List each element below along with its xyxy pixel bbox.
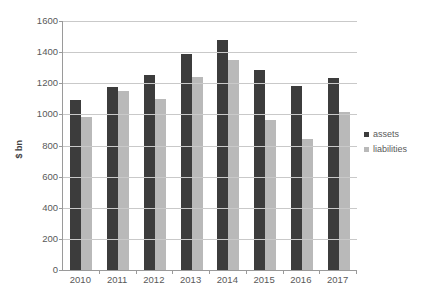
legend-item-liabilities[interactable]: liabilities (364, 145, 428, 154)
x-axis-tick-label-2010: 2010 (62, 275, 99, 285)
legend-item-assets[interactable]: assets (364, 130, 428, 139)
y-axis-tick-mark (59, 208, 63, 209)
bar-assets-2012[interactable] (144, 75, 155, 270)
y-axis-tick-label: 400 (42, 203, 58, 213)
x-axis-tick-mark (319, 270, 320, 274)
bar-liabilities-2013[interactable] (192, 77, 203, 270)
x-axis-tick-label-2011: 2011 (99, 275, 136, 285)
plot-area (62, 21, 357, 271)
legend-label: assets (373, 130, 399, 139)
bar-liabilities-2017[interactable] (339, 112, 350, 270)
gridline (63, 21, 357, 22)
x-axis-tick-labels: 20102011201220132014201520162017 (62, 275, 356, 285)
x-axis-tick-label-2017: 2017 (319, 275, 356, 285)
bar-liabilities-2016[interactable] (302, 139, 313, 271)
x-axis-tick-mark (246, 270, 247, 274)
y-axis-tick-mark (59, 239, 63, 240)
y-axis-tick-label: 600 (42, 172, 58, 182)
x-axis-tick-label-2014: 2014 (209, 275, 246, 285)
gridline (63, 208, 357, 209)
x-axis-tick-mark (172, 270, 173, 274)
x-axis-tick-label-2013: 2013 (172, 275, 209, 285)
y-axis-tick-label: 1200 (37, 79, 58, 89)
y-axis-title: $ bn (14, 140, 30, 159)
bar-liabilities-2010[interactable] (81, 117, 92, 270)
gridline (63, 146, 357, 147)
bar-liabilities-2011[interactable] (118, 91, 129, 270)
bar-assets-2015[interactable] (254, 70, 265, 270)
legend-swatch-icon (364, 132, 369, 137)
x-axis-tick-mark (209, 270, 210, 274)
y-axis-tick-mark (59, 52, 63, 53)
x-axis-tick-mark (283, 270, 284, 274)
y-axis-tick-mark (59, 83, 63, 84)
y-axis-tick-mark (59, 21, 63, 22)
y-axis-tick-mark (59, 177, 63, 178)
x-axis-tick-mark (136, 270, 137, 274)
x-axis-tick-label-2016: 2016 (283, 275, 320, 285)
y-axis-tick-label: 200 (42, 234, 58, 244)
chart-legend: assetsliabilities (364, 130, 428, 160)
x-axis-tick-mark (356, 270, 357, 274)
legend-swatch-icon (364, 147, 369, 152)
x-axis-tick-label-2012: 2012 (136, 275, 173, 285)
bar-assets-2014[interactable] (217, 40, 228, 270)
y-axis-tick-label: 1400 (37, 47, 58, 57)
y-axis-tick-label: 1000 (37, 110, 58, 120)
legend-label: liabilities (373, 145, 407, 154)
gridline (63, 83, 357, 84)
bar-assets-2013[interactable] (181, 54, 192, 270)
gridline (63, 177, 357, 178)
gridline (63, 114, 357, 115)
gridline (63, 239, 357, 240)
x-axis-tick-mark (99, 270, 100, 274)
bar-assets-2017[interactable] (328, 78, 339, 271)
bar-liabilities-2015[interactable] (265, 120, 276, 270)
y-axis-tick-labels: 16001400120010008006004002000 (30, 21, 58, 270)
y-axis-tick-label: 0 (53, 265, 58, 275)
y-axis-tick-mark (59, 146, 63, 147)
y-axis-tick-label: 800 (42, 141, 58, 151)
gridline (63, 52, 357, 53)
bar-assets-2010[interactable] (70, 100, 81, 270)
bar-liabilities-2012[interactable] (155, 99, 166, 270)
y-axis-tick-mark (59, 114, 63, 115)
bar-chart: $ bn 16001400120010008006004002000 20102… (0, 0, 428, 300)
x-axis-tick-label-2015: 2015 (246, 275, 283, 285)
y-axis-tick-label: 1600 (37, 16, 58, 26)
y-axis-tick-mark (59, 270, 63, 271)
